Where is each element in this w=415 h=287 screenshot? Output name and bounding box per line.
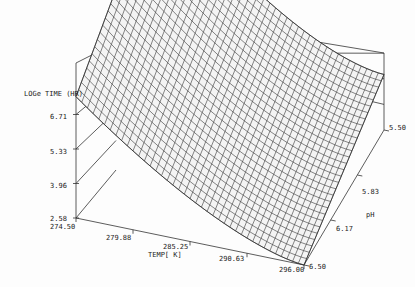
z-axis-title: LOGe TIME (HR) [24,90,83,98]
x-tick-274.50: 274.50 [50,223,75,231]
y-tick-5.83: 5.83 [362,188,379,196]
surface-plot: LOGe TIME (HR) 6.71 5.33 3.96 2.58 274.5… [0,0,415,287]
y-tick-6.17: 6.17 [336,225,353,233]
z-tick-5.33: 5.33 [50,148,67,156]
x-tick-285.25: 285.25 [163,243,188,251]
x-tick-290.63: 290.63 [219,255,244,263]
x-tick-296.00: 296.00 [279,266,304,274]
plot-canvas: LOGe TIME (HR) 6.71 5.33 3.96 2.58 274.5… [0,0,415,287]
y-tick-5.50: 5.50 [389,124,406,132]
z-tick-6.71: 6.71 [50,113,67,121]
y-tick-6.50: 6.50 [309,263,326,271]
z-tick-2.58: 2.58 [50,215,67,223]
x-tick-279.88: 279.88 [106,234,131,242]
x-axis-title: TEMP[ K] [148,251,182,259]
z-tick-3.96: 3.96 [50,182,67,190]
y-axis-title: pH [366,211,374,219]
